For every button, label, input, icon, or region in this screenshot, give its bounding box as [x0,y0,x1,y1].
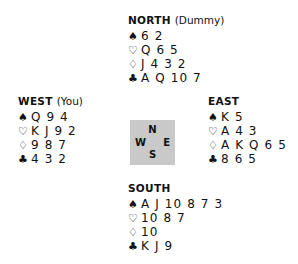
hand-north-header: NORTH (Dummy) [128,14,224,26]
diamond-icon: ♢ [128,58,141,72]
hand-west-header: WEST (You) [18,95,83,107]
hand-north-clubs-cards: A Q 10 7 [141,71,202,85]
hand-west: WEST (You) ♠ Q 9 4 ♡ K J 9 2 ♢ 9 8 7 ♣ 4… [18,95,83,166]
hand-east-clubs: ♣ 8 6 5 [208,152,287,166]
hand-north-hearts: ♡ Q 6 5 [128,43,224,57]
compass-west-label: W [135,138,146,148]
hand-east-hearts-cards: A 4 3 [221,124,258,138]
hand-west-hearts-cards: K J 9 2 [31,124,77,138]
hand-south-clubs: ♣ K J 9 [128,239,223,253]
hand-north-diamonds: ♢ J 4 3 2 [128,57,224,71]
hand-west-clubs: ♣ 4 3 2 [18,152,83,166]
spade-icon: ♠ [128,198,141,212]
hand-east-diamonds: ♢ A K Q 6 5 [208,138,287,152]
spade-icon: ♠ [18,111,31,125]
hand-south-hearts: ♡ 10 8 7 [128,211,223,225]
hand-north-qualifier: (Dummy) [175,14,225,26]
hand-east: EAST ♠ K 5 ♡ A 4 3 ♢ A K Q 6 5 ♣ 8 6 5 [208,95,287,166]
hand-east-header: EAST [208,95,287,107]
hand-east-clubs-cards: 8 6 5 [221,152,257,166]
hand-south: SOUTH ♠ A J 10 8 7 3 ♡ 10 8 7 ♢ 10 ♣ K J… [128,182,223,253]
hand-north-spades: ♠ 6 2 [128,29,224,43]
hand-south-spades: ♠ A J 10 8 7 3 [128,197,223,211]
hand-south-diamonds: ♢ 10 [128,225,223,239]
hand-north-hearts-cards: Q 6 5 [141,43,179,57]
compass-box: N W E S [130,120,175,165]
heart-icon: ♡ [18,125,31,139]
hand-west-name: WEST [18,95,53,107]
hand-south-name: SOUTH [128,182,170,194]
compass-south-label: S [149,150,156,160]
club-icon: ♣ [18,153,31,167]
club-icon: ♣ [128,240,141,254]
spade-icon: ♠ [128,30,141,44]
diamond-icon: ♢ [18,139,31,153]
hand-west-hearts: ♡ K J 9 2 [18,124,83,138]
hand-east-hearts: ♡ A 4 3 [208,124,287,138]
compass-east-label: E [163,138,170,148]
hand-south-header: SOUTH [128,182,223,194]
heart-icon: ♡ [128,212,141,226]
compass-north-label: N [148,125,156,135]
heart-icon: ♡ [208,125,221,139]
hand-west-qualifier: (You) [57,95,83,107]
hand-east-spades: ♠ K 5 [208,110,287,124]
hand-west-spades-cards: Q 9 4 [31,110,69,124]
hand-north: NORTH (Dummy) ♠ 6 2 ♡ Q 6 5 ♢ J 4 3 2 ♣ … [128,14,224,85]
hand-north-diamonds-cards: J 4 3 2 [141,57,187,71]
hand-south-spades-cards: A J 10 8 7 3 [141,197,223,211]
hand-west-diamonds: ♢ 9 8 7 [18,138,83,152]
hand-east-spades-cards: K 5 [221,110,244,124]
spade-icon: ♠ [208,111,221,125]
club-icon: ♣ [208,153,221,167]
hand-south-hearts-cards: 10 8 7 [141,211,186,225]
diamond-icon: ♢ [128,226,141,240]
hand-west-diamonds-cards: 9 8 7 [31,138,67,152]
hand-north-spades-cards: 6 2 [141,29,163,43]
hand-west-clubs-cards: 4 3 2 [31,152,67,166]
hand-south-clubs-cards: K J 9 [141,239,173,253]
hand-south-diamonds-cards: 10 [141,225,158,239]
hand-north-name: NORTH [128,14,171,26]
hand-north-clubs: ♣ A Q 10 7 [128,71,224,85]
club-icon: ♣ [128,72,141,86]
hand-east-name: EAST [208,95,239,107]
hand-east-diamonds-cards: A K Q 6 5 [221,138,287,152]
heart-icon: ♡ [128,44,141,58]
hand-west-spades: ♠ Q 9 4 [18,110,83,124]
diamond-icon: ♢ [208,139,221,153]
